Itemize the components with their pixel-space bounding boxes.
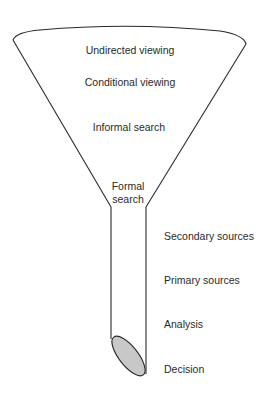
label-analysis: Analysis — [164, 318, 203, 330]
label-secondary-sources: Secondary sources — [164, 230, 254, 242]
label-formal-search-line1: Formal — [112, 180, 145, 192]
label-formal-search-line2: search — [112, 193, 144, 205]
label-primary-sources: Primary sources — [164, 274, 240, 286]
label-informal-search: Informal search — [93, 121, 165, 133]
outlet-ellipse — [106, 331, 151, 381]
label-conditional-viewing: Conditional viewing — [85, 76, 175, 88]
funnel-diagram: Undirected viewing Conditional viewing I… — [0, 0, 261, 396]
label-decision: Decision — [164, 363, 204, 375]
funnel-rim — [13, 26, 246, 44]
label-undirected-viewing: Undirected viewing — [86, 44, 175, 56]
